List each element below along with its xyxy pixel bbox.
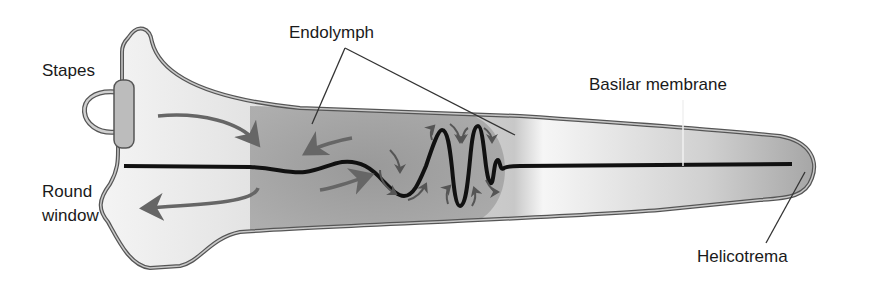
label-basilar-membrane: Basilar membrane xyxy=(589,75,727,95)
stapes-shape xyxy=(84,80,134,148)
cochlea-diagram: Stapes Round window Endolymph Basilar me… xyxy=(0,0,878,295)
cochlea-body xyxy=(101,28,814,268)
label-stapes: Stapes xyxy=(42,61,95,81)
label-round-window-line2: window xyxy=(42,206,99,226)
label-helicotrema: Helicotrema xyxy=(697,247,788,267)
label-round-window-line1: Round xyxy=(42,182,92,202)
label-endolymph: Endolymph xyxy=(289,23,374,43)
